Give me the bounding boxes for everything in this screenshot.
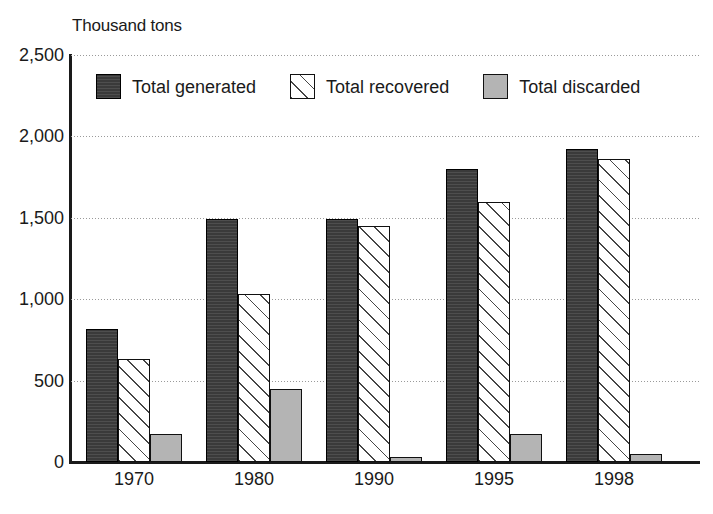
y-axis-tick-label: 2,500 <box>0 46 64 64</box>
legend-item[interactable]: Total recovered <box>290 74 449 99</box>
bar-total-discarded <box>270 389 302 462</box>
x-axis-tick-label: 1995 <box>439 470 549 488</box>
y-axis-tick-label: 1,500 <box>0 209 64 227</box>
legend-item-label: Total generated <box>132 78 256 96</box>
legend-item-label: Total discarded <box>519 78 640 96</box>
legend-item[interactable]: Total discarded <box>483 74 640 99</box>
bar-total-discarded <box>630 454 662 462</box>
bar-total-recovered <box>478 202 510 462</box>
bar-total-generated <box>206 219 238 462</box>
y-axis-tick-label: 1,000 <box>0 290 64 308</box>
x-axis-tick-label: 1998 <box>559 470 669 488</box>
y-axis-tick-label: 500 <box>0 372 64 390</box>
legend: Total generated Total recovered Total di… <box>96 74 640 99</box>
x-axis-tick-label: 1980 <box>199 470 309 488</box>
bar-total-generated <box>566 149 598 462</box>
x-axis-tick-label: 1970 <box>79 470 189 488</box>
bar-total-recovered <box>118 359 150 462</box>
bar-group <box>566 55 662 462</box>
legend-item[interactable]: Total generated <box>96 74 256 99</box>
bar-total-recovered <box>238 294 270 462</box>
bar-chart: Thousand tons 05001,0001,5002,0002,500 1… <box>0 0 713 514</box>
bar-total-generated <box>446 169 478 462</box>
legend-item-label: Total recovered <box>326 78 449 96</box>
hatched-square-swatch-icon <box>290 74 315 99</box>
gray-square-swatch-icon <box>483 74 508 99</box>
bar-total-recovered <box>598 159 630 462</box>
x-axis-tick-label: 1990 <box>319 470 429 488</box>
dark-square-swatch-icon <box>96 74 121 99</box>
bar-group <box>326 55 422 462</box>
y-axis-title: Thousand tons <box>72 16 182 36</box>
bar-total-discarded <box>150 434 182 462</box>
bar-total-generated <box>86 329 118 462</box>
bar-total-discarded <box>390 457 422 462</box>
bar-group <box>446 55 542 462</box>
bar-group <box>86 55 182 462</box>
bar-total-discarded <box>510 434 542 462</box>
y-axis-tick-label: 0 <box>0 453 64 471</box>
y-axis-tick-label: 2,000 <box>0 127 64 145</box>
plot-area <box>71 55 700 462</box>
bar-total-generated <box>326 219 358 462</box>
bar-group <box>206 55 302 462</box>
bar-total-recovered <box>358 226 390 462</box>
